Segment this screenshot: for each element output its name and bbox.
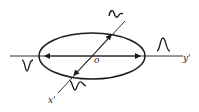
ellipse-axes-diagram: o y' x' <box>0 0 199 112</box>
origin-label: o <box>94 55 100 65</box>
diagonal-double-arrow-up <box>92 35 111 56</box>
pulse-top-right-icon <box>109 11 123 18</box>
y-prime-axis-label: y' <box>182 53 191 63</box>
pulse-bottom-left-icon <box>70 81 86 90</box>
pulse-right-icon <box>157 38 170 51</box>
pulse-left-icon <box>22 60 33 71</box>
x-prime-axis-label: x' <box>48 95 56 105</box>
diagonal-double-arrow-down <box>74 56 92 75</box>
